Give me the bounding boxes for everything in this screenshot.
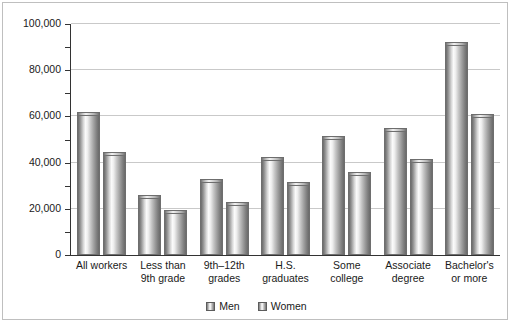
bar-men[interactable]	[445, 42, 468, 255]
x-axis-label-line: or more	[433, 272, 505, 285]
bar-cap	[348, 172, 371, 176]
x-axis-label: Bachelor'sor more	[433, 259, 505, 284]
bar-cap	[471, 114, 494, 118]
bar-men[interactable]	[384, 128, 407, 255]
x-axis-line	[70, 255, 500, 256]
bar-women[interactable]	[226, 202, 249, 255]
legend-swatch-icon	[206, 302, 215, 311]
bar-men[interactable]	[138, 195, 161, 255]
bar-group	[200, 24, 249, 255]
bar-group	[138, 24, 187, 255]
bar-men[interactable]	[261, 157, 284, 255]
legend-swatch-icon	[258, 302, 267, 311]
bar-group	[445, 24, 494, 255]
legend-item[interactable]: Men	[206, 300, 239, 312]
bar-cap	[384, 128, 407, 132]
chart-figure: 020,00040,00060,00080,000100,000 All wor…	[0, 0, 513, 323]
bar-cap	[103, 152, 126, 156]
bar-cap	[226, 202, 249, 206]
bar-cap	[200, 179, 223, 183]
bar-women[interactable]	[287, 182, 310, 255]
bar-groups	[71, 24, 500, 255]
bar-cap	[445, 42, 468, 46]
bar-cap	[261, 157, 284, 161]
bar-cap	[287, 182, 310, 186]
legend-item[interactable]: Women	[258, 300, 307, 312]
bar-cap	[77, 112, 100, 116]
bar-women[interactable]	[471, 114, 494, 255]
bar-men[interactable]	[77, 112, 100, 255]
bar-cap	[164, 210, 187, 214]
bar-women[interactable]	[348, 172, 371, 255]
bar-women[interactable]	[164, 210, 187, 255]
bar-group	[77, 24, 126, 255]
chart-legend: MenWomen	[0, 300, 513, 312]
bar-men[interactable]	[200, 179, 223, 255]
legend-label: Men	[219, 300, 239, 312]
bar-women[interactable]	[410, 159, 433, 255]
bar-cap	[410, 159, 433, 163]
bar-group	[322, 24, 371, 255]
x-axis-label-line: Bachelor's	[433, 259, 505, 272]
bar-women[interactable]	[103, 152, 126, 255]
x-axis-labels: All workersLess than9th grade9th–12thgra…	[71, 259, 500, 295]
bar-group	[261, 24, 310, 255]
bar-men[interactable]	[322, 136, 345, 255]
bar-cap	[138, 195, 161, 199]
bar-cap	[322, 136, 345, 140]
legend-label: Women	[271, 300, 307, 312]
bar-group	[384, 24, 433, 255]
